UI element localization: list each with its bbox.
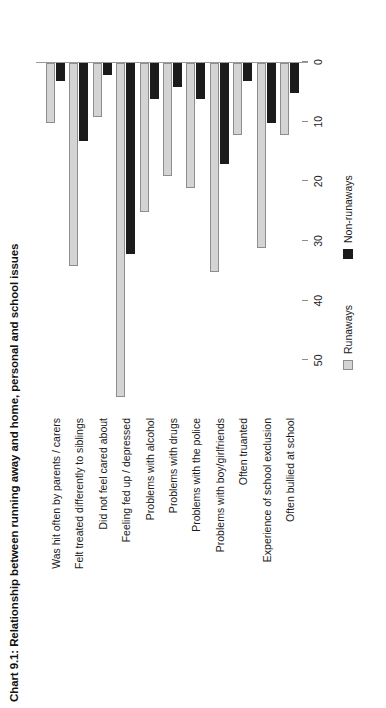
- chart-figure: Chart 9.1: Relationship between running …: [0, 0, 386, 708]
- tick-label: 0: [312, 59, 324, 65]
- tick-mark: [302, 61, 308, 62]
- category-label: Feeling fed up / depressed: [120, 418, 132, 542]
- tick-label: 30: [312, 235, 324, 247]
- category-label: Problems with the police: [190, 418, 202, 532]
- tick-mark: [302, 240, 308, 241]
- category-label: Felt treated differently to siblings: [73, 418, 85, 569]
- category-label: Problems with alcohol: [144, 418, 156, 520]
- category-label: Was hit often by parents / carers: [50, 418, 62, 569]
- category-label: Experience of school exclusion: [261, 418, 273, 562]
- tick-label: 40: [312, 295, 324, 307]
- legend-swatch-runaways-icon: [343, 360, 353, 370]
- category-axis-labels: Was hit often by parents / carersFelt tr…: [44, 412, 302, 708]
- tick-mark: [302, 121, 308, 122]
- tick-label: 10: [312, 116, 324, 128]
- value-axis-tick-labels: 01020304050: [312, 62, 330, 408]
- category-label: Did not feel cared about: [97, 418, 109, 530]
- tick-label: 20: [312, 175, 324, 187]
- tick-label: 50: [312, 354, 324, 366]
- legend-swatch-nonrunaways-icon: [343, 249, 353, 259]
- value-axis-tick-marks: [44, 62, 302, 408]
- tick-mark: [302, 300, 308, 301]
- legend-label: Non-runaways: [342, 175, 354, 243]
- category-label: Problems with drugs: [167, 418, 179, 513]
- legend-label: Runaways: [342, 305, 354, 354]
- category-label: Often truanted: [237, 418, 249, 485]
- tick-mark: [302, 359, 308, 360]
- category-label: Often bullied at school: [284, 418, 296, 522]
- chart-legend: RunawaysNon-runaways: [338, 175, 358, 370]
- legend-entry: Runaways: [342, 305, 354, 370]
- chart-title: Chart 9.1: Relationship between running …: [8, 244, 20, 702]
- chart-figure-rotor: Chart 9.1: Relationship between running …: [0, 0, 386, 708]
- category-label: Problems with boy/girlfriends: [214, 418, 226, 552]
- tick-mark: [302, 180, 308, 181]
- legend-entry: Non-runaways: [342, 175, 354, 259]
